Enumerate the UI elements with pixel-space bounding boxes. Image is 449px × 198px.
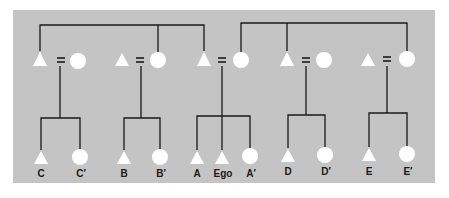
marriage-equals-icon — [57, 58, 65, 62]
female-circle-icon — [152, 149, 168, 165]
female-circle-icon — [399, 51, 415, 67]
label-e-prime: E′ — [403, 166, 413, 177]
male-triangle-icon — [34, 151, 48, 164]
ego-triangle-icon — [215, 151, 229, 164]
female-circle-icon — [70, 53, 86, 69]
label-b: B — [120, 168, 127, 179]
sibling-bar-maternal — [241, 23, 407, 52]
female-circle-icon — [150, 52, 166, 68]
descent-line — [41, 66, 80, 150]
female-circle-icon — [233, 52, 249, 68]
descent-line — [124, 66, 160, 150]
label-e: E — [366, 166, 373, 177]
female-circle-icon — [242, 148, 258, 164]
marriage-equals-icon — [302, 58, 310, 62]
female-circle-icon — [72, 149, 88, 165]
male-triangle-icon — [33, 52, 47, 66]
descent-line — [288, 66, 325, 148]
male-triangle-icon — [117, 151, 131, 164]
female-circle-icon — [399, 146, 415, 162]
family-c: C C′ — [33, 52, 88, 179]
male-triangle-icon — [362, 148, 376, 161]
male-triangle-icon — [280, 52, 294, 66]
male-triangle-icon — [281, 149, 295, 162]
label-c: C — [37, 168, 44, 179]
family-d: D D′ — [280, 52, 333, 177]
label-ego: Ego — [214, 168, 233, 179]
descent-line — [369, 66, 407, 147]
male-triangle-icon — [115, 53, 129, 66]
kinship-diagram: C C′ B B′ A Ego A′ — [0, 0, 449, 198]
family-b: B B′ — [115, 52, 168, 179]
label-d: D — [284, 166, 291, 177]
sibling-bar-paternal — [40, 25, 204, 52]
marriage-equals-icon — [383, 57, 391, 61]
marriage-equals-icon — [218, 58, 226, 62]
male-triangle-icon — [190, 151, 204, 164]
family-ego: A Ego A′ — [190, 52, 258, 179]
female-circle-icon — [317, 147, 333, 163]
male-triangle-icon — [361, 53, 375, 66]
label-d-prime: D′ — [321, 166, 331, 177]
label-a: A — [193, 168, 200, 179]
male-triangle-icon — [197, 52, 211, 66]
label-a-prime: A′ — [246, 168, 256, 179]
descent-line — [197, 66, 250, 150]
family-e: E E′ — [361, 51, 415, 177]
marriage-equals-icon — [136, 58, 144, 62]
label-c-prime: C′ — [76, 168, 86, 179]
female-circle-icon — [316, 52, 332, 68]
label-b-prime: B′ — [156, 168, 166, 179]
